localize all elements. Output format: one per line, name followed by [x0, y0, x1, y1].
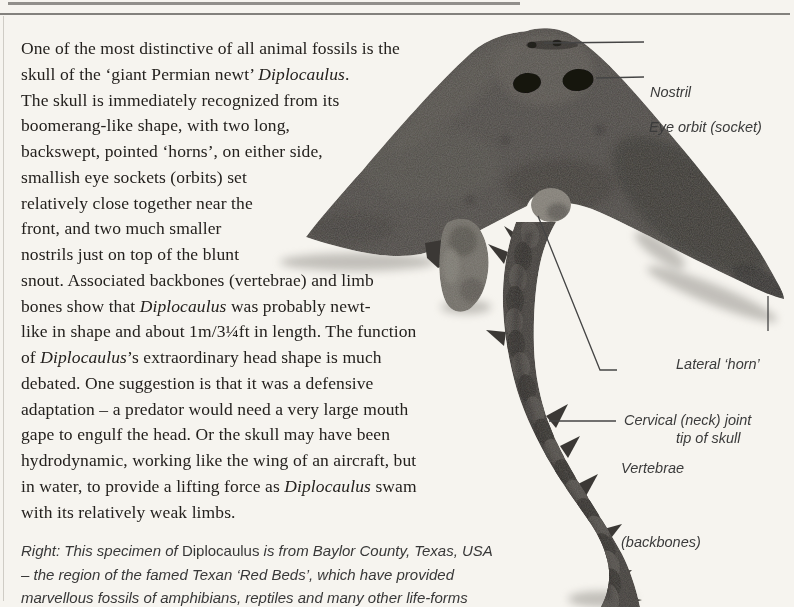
text-line: backswept, pointed ‘horns’, on either si… — [21, 139, 417, 165]
text-line: relatively close together near the — [21, 191, 417, 217]
label-vertebrae: Vertebrae (backbones) — [621, 407, 701, 603]
label-eye-orbit: Eye orbit (socket) — [649, 66, 762, 189]
text-line: gape to engulf the head. Or the skull ma… — [21, 422, 417, 448]
text-line: like in shape and about 1m/3¼ft in lengt… — [21, 319, 417, 345]
text-line: Right: This specimen of Diplocaulus is f… — [21, 539, 493, 563]
text-line: bones show that Diplocaulus was probably… — [21, 294, 417, 320]
text-line: nostrils just on top of the blunt — [21, 242, 417, 268]
text-line: marvellous fossils of amphibians, reptil… — [21, 586, 493, 607]
text-line: of Diplocaulus’s extraordinary head shap… — [21, 345, 417, 371]
label-eye-orbit-text: Eye orbit (socket) — [649, 115, 762, 140]
text-line: front, and two much smaller — [21, 216, 417, 242]
leader-cervical-joint — [538, 216, 617, 370]
text-line: snout. Associated backbones (vertebrae) … — [21, 268, 417, 294]
text-line: One of the most distinctive of all anima… — [21, 36, 417, 62]
text-line: hydrodynamic, working like the wing of a… — [21, 448, 417, 474]
text-line: with its relatively weak limbs. — [21, 500, 417, 526]
label-vertebrae-line2: (backbones) — [621, 530, 701, 555]
text-line: skull of the ‘giant Permian newt’ Diploc… — [21, 62, 417, 88]
page-root: One of the most distinctive of all anima… — [0, 0, 794, 607]
photo-caption: Right: This specimen of Diplocaulus is f… — [21, 539, 493, 607]
text-line: The skull is immediately recognized from… — [21, 88, 417, 114]
body-text: One of the most distinctive of all anima… — [21, 36, 417, 525]
text-line: in water, to provide a lifting force as … — [21, 474, 417, 500]
text-line: adaptation – a predator would need a ver… — [21, 397, 417, 423]
text-line: debated. One suggestion is that it was a… — [21, 371, 417, 397]
text-line: – the region of the famed Texan ‘Red Bed… — [21, 563, 493, 587]
label-vertebrae-line1: Vertebrae — [621, 456, 701, 481]
text-line: smallish eye sockets (orbits) set — [21, 165, 417, 191]
text-line: boomerang-like shape, with two long, — [21, 113, 417, 139]
